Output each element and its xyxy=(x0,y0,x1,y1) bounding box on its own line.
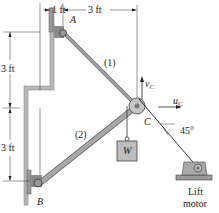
dim-left-upper: 3 ft xyxy=(1,64,15,74)
label-member-1: (1) xyxy=(104,58,116,68)
label-weight: W xyxy=(123,146,131,156)
label-vc: vC xyxy=(145,79,154,91)
pin-a xyxy=(60,30,67,37)
lift-motor xyxy=(176,162,212,180)
label-member-2: (2) xyxy=(75,130,87,140)
mechanism-diagram xyxy=(0,0,219,213)
label-motor-line1: Lift xyxy=(188,187,203,197)
label-uc: uC xyxy=(173,96,183,108)
pin-b xyxy=(34,179,42,187)
label-angle: 45° xyxy=(180,126,194,136)
dim-left-lower: 3 ft xyxy=(1,143,15,153)
label-a: A xyxy=(70,15,76,25)
label-b: B xyxy=(37,197,43,207)
dim-top-right: 3 ft xyxy=(88,5,102,15)
label-c: C xyxy=(144,117,151,127)
label-motor-line2: motor xyxy=(183,199,207,209)
dim-top-left: 1 ft xyxy=(52,5,66,15)
